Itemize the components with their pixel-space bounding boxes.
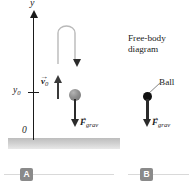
trajectory-arrowhead-icon	[73, 59, 81, 67]
trajectory-path-icon	[55, 24, 89, 64]
velocity-subscript: 0	[45, 80, 48, 87]
force-subscript: grav	[158, 121, 170, 128]
vector-arrow-accent-icon: →	[151, 113, 159, 122]
origin-label: 0	[22, 125, 27, 135]
y-naught-tick-mark	[28, 92, 39, 93]
y-naught-subscript: 0	[17, 89, 20, 96]
physics-figure-projectile-freebody: y y0 0 →v0 →Fgrav Free-body diagram Ball…	[0, 0, 193, 192]
force-subscript: grav	[86, 121, 98, 128]
panel-b-rule	[128, 174, 189, 175]
initial-velocity-vector-shaft	[57, 82, 60, 99]
fbd-title-line2: diagram	[128, 44, 166, 55]
fbd-title-line1: Free-body	[128, 33, 166, 44]
y-naught-label: y0	[13, 85, 21, 96]
gravity-force-label-panel-b: →Fgrav	[152, 117, 170, 128]
ground-surface	[8, 138, 120, 149]
initial-velocity-label: →v0	[41, 76, 48, 87]
y-axis-label: y	[30, 0, 34, 8]
vector-arrow-accent-icon: →	[40, 72, 48, 81]
force-symbol: →F	[152, 117, 158, 127]
gravity-force-label-panel-a: →Fgrav	[80, 117, 98, 128]
gravity-arrowhead-icon-panel-a	[71, 119, 79, 127]
force-symbol: →F	[80, 117, 86, 127]
initial-velocity-arrowhead-icon	[54, 75, 62, 83]
panel-badge-a: A	[20, 168, 33, 181]
vector-arrow-accent-icon: →	[79, 113, 87, 122]
velocity-symbol: →v	[41, 76, 45, 86]
free-body-diagram-title: Free-body diagram	[128, 33, 166, 55]
panel-badge-b: B	[140, 168, 153, 181]
y-axis-arrowhead-icon	[30, 10, 38, 18]
y-axis-line	[33, 16, 34, 140]
